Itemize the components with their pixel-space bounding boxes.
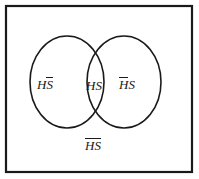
region-label-right-only: HS (119, 77, 135, 91)
region-label-outside: HS (85, 138, 101, 152)
region-mid-first: H (86, 78, 95, 93)
region-right-second: S (128, 77, 135, 92)
region-label-left-only: HS (37, 77, 53, 91)
venn-diagram-figure: HS HS HS HS (0, 0, 199, 179)
region-outside-complement-both: HS (85, 138, 101, 152)
region-left-base: H (37, 77, 46, 92)
region-label-intersection: HS (86, 79, 102, 92)
region-mid-second: S (95, 78, 102, 93)
region-left-complement-s: S (46, 77, 53, 91)
region-right-complement-h: H (119, 77, 128, 91)
